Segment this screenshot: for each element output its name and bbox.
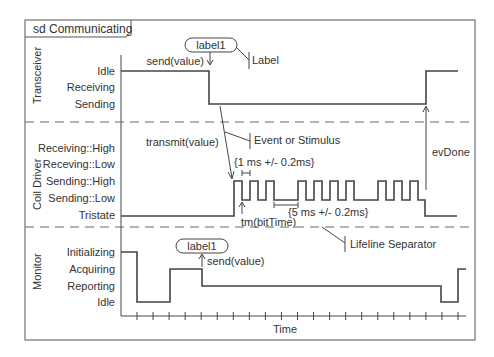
label1-bottom-text: label1 bbox=[187, 240, 216, 252]
state-label-initializing: Initializing bbox=[67, 246, 115, 258]
state-label-receiving: Receiving bbox=[67, 81, 115, 93]
constraint-1ms-text: {1 ms +/- 0.2ms} bbox=[234, 156, 315, 168]
state-label-sending: Sending bbox=[75, 98, 115, 110]
send-bottom-text: send(value) bbox=[207, 255, 264, 267]
time-axis-label: Time bbox=[273, 323, 297, 335]
state-label-sending-high: Sending::High bbox=[46, 175, 115, 187]
send-top-text: send(value) bbox=[147, 55, 204, 67]
constraint-5ms-text: {5 ms +/- 0.2ms} bbox=[288, 206, 369, 218]
transmit-text: transmit(value) bbox=[146, 136, 219, 148]
event-callout-line bbox=[225, 132, 250, 141]
lifeline-name-transceiver: Transceiver bbox=[31, 47, 43, 104]
event-callout-text: Event or Stimulus bbox=[254, 134, 341, 146]
state-label-sending-low: Sending::Low bbox=[48, 192, 115, 204]
label-callout-text: Label bbox=[252, 54, 279, 66]
evdone-text: evDone bbox=[432, 146, 470, 158]
frame-title: sd Communicating bbox=[33, 22, 132, 36]
state-label-acquiring: Acquiring bbox=[69, 263, 115, 275]
lifeline-name-monitor: Monitor bbox=[31, 253, 43, 290]
label-callout-line bbox=[236, 47, 249, 60]
time-ticks bbox=[137, 312, 458, 320]
constraint-1ms-bracket bbox=[242, 170, 250, 176]
state-label-receiving-low: Receving::Low bbox=[43, 158, 115, 170]
timing-diagram: sd Communicating Transceiver Coil Driver… bbox=[0, 0, 494, 357]
state-label-tristate: Tristate bbox=[79, 209, 115, 221]
state-label-receiving-high: Receiving::High bbox=[38, 142, 115, 154]
monitor-waveform bbox=[121, 252, 466, 302]
state-label-idle: Idle bbox=[97, 65, 115, 77]
transceiver-waveform bbox=[121, 71, 458, 104]
transmit-arrow bbox=[220, 106, 232, 178]
lifeline-name-coil-driver: Coil Driver bbox=[31, 158, 43, 210]
label1-top-text: label1 bbox=[196, 39, 225, 51]
state-label-reporting: Reporting bbox=[67, 280, 115, 292]
separator-callout-text: Lifeline Separator bbox=[350, 238, 437, 250]
state-label-monitor-idle: Idle bbox=[97, 296, 115, 308]
separator-callout-line bbox=[322, 227, 345, 243]
